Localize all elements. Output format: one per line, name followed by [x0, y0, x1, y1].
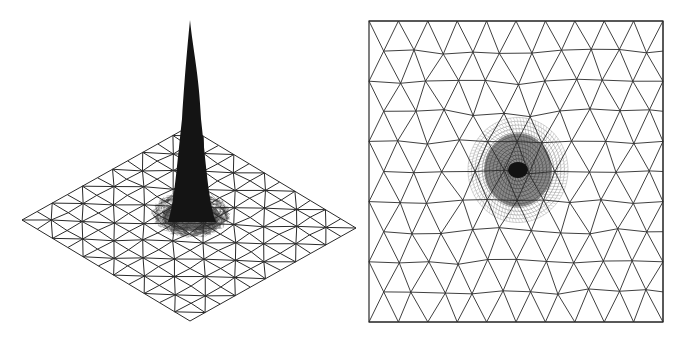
mesh-plan-panel: 2D plan view of adapted triangular mesh [362, 0, 681, 345]
surface-plot-panel: 3D surface view of solution on adapted m… [0, 0, 365, 345]
mesh-plan-2d [362, 0, 681, 345]
surface-mesh-3d [0, 0, 365, 345]
